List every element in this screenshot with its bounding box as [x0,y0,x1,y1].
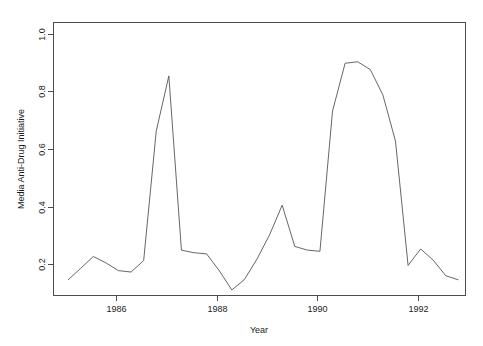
x-tick-label: 1990 [307,304,327,314]
y-axis-tick-labels: 0.20.40.60.81.0 [37,28,47,271]
x-tick-label: 1988 [207,304,227,314]
y-axis-ticks [48,35,53,265]
y-tick-label: 0.8 [37,85,47,98]
line-chart-svg: 0.20.40.60.81.0 1986198819901992 Year Me… [0,0,483,346]
y-tick-label: 1.0 [37,28,47,41]
y-tick-label: 0.6 [37,143,47,156]
data-series-line [68,62,458,290]
y-tick-label: 0.2 [37,258,47,271]
x-axis-title: Year [250,325,268,335]
chart-container: 0.20.40.60.81.0 1986198819901992 Year Me… [0,0,483,346]
x-axis-ticks [117,296,419,301]
y-axis-title: Media Anti-Drug Initiative [16,109,26,209]
x-tick-label: 1986 [106,304,126,314]
x-axis-tick-labels: 1986198819901992 [106,304,428,314]
y-tick-label: 0.4 [37,201,47,214]
x-tick-label: 1992 [408,304,428,314]
